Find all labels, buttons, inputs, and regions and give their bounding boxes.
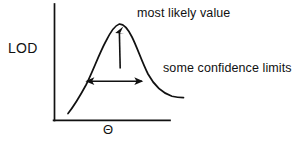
x-axis-label: Θ — [103, 123, 113, 136]
y-axis-label: LOD — [8, 41, 38, 55]
confidence-limits-label: some confidence limits — [163, 62, 292, 75]
most-likely-value-arrow — [119, 33, 120, 69]
lod-curve-diagram: LOD Θ most likely value some confidence … — [0, 0, 298, 143]
most-likely-value-label: most likely value — [137, 7, 230, 20]
